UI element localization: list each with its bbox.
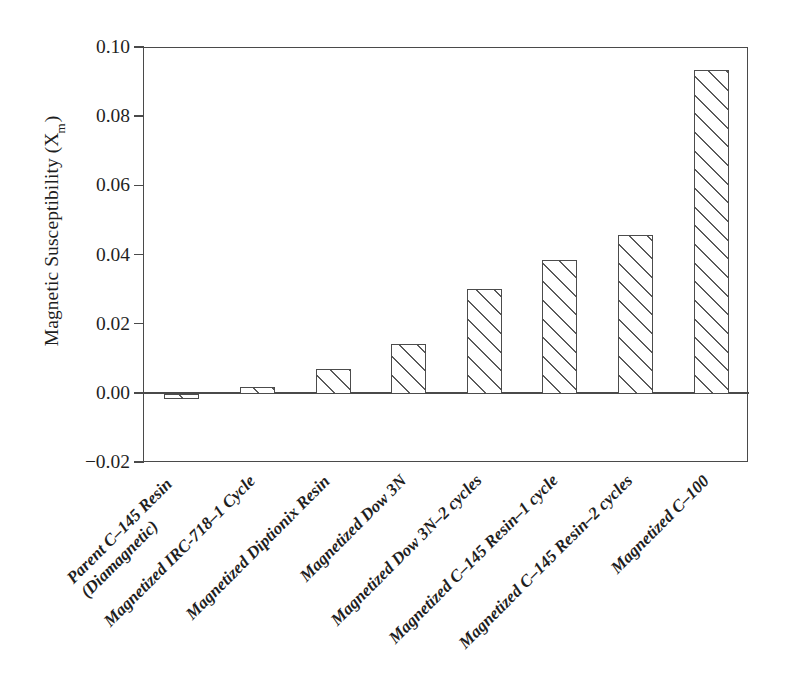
y-axis-tick-label: 0.04 — [56, 245, 130, 265]
zero-baseline — [144, 392, 749, 394]
bar[interactable] — [542, 260, 577, 394]
plot-area — [143, 47, 748, 462]
bar[interactable] — [164, 394, 199, 399]
y-axis-tick-label: 0.06 — [56, 175, 130, 195]
bar[interactable] — [240, 387, 275, 394]
y-axis-tick-label: 0.10 — [56, 37, 130, 57]
y-axis-tick-label: 0.00 — [56, 383, 130, 403]
bar[interactable] — [694, 70, 729, 393]
bar[interactable] — [316, 369, 351, 394]
y-axis-tick-label: 0.02 — [56, 314, 130, 334]
bar[interactable] — [467, 289, 502, 394]
y-axis-tick-label: 0.08 — [56, 106, 130, 126]
bar[interactable] — [618, 235, 653, 394]
bar[interactable] — [391, 344, 426, 393]
x-axis-category-label: Magnetized Dow 3N–2 cycles — [327, 471, 486, 630]
y-axis-tick-label: −0.02 — [56, 452, 130, 472]
x-axis-category-label-line1: Magnetized Dow 3N–2 cycles — [327, 471, 486, 630]
x-axis-category-label-line1: Magnetized Diptionix Resin — [182, 471, 334, 623]
x-axis-category-label: Magnetized Diptionix Resin — [182, 471, 334, 623]
magnetic-susceptibility-bar-chart: Magnetic Susceptibility (Xm) 0.100.080.0… — [0, 0, 785, 674]
